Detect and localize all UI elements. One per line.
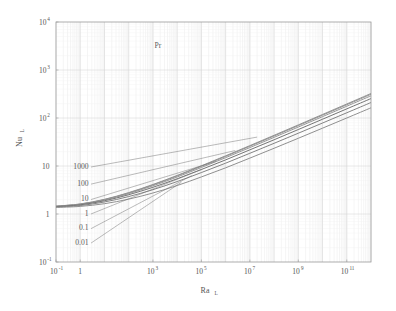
svg-text:Nu: Nu <box>15 137 24 147</box>
legend-label-pr-1: 1 <box>85 209 89 218</box>
svg-text:5: 5 <box>204 265 207 271</box>
nusselt-rayleigh-chart: Pr10001001010.10.01 10-11103105107109101… <box>0 0 396 311</box>
svg-text:3: 3 <box>47 64 50 70</box>
svg-text:Ra: Ra <box>201 286 210 295</box>
svg-text:10: 10 <box>147 267 155 276</box>
svg-text:4: 4 <box>47 16 50 22</box>
legend-title-pr: Pr <box>155 41 162 50</box>
svg-text:1: 1 <box>78 267 82 276</box>
svg-text:10: 10 <box>292 267 300 276</box>
x-tick-1: 1 <box>78 267 82 276</box>
svg-text:-1: -1 <box>47 256 52 262</box>
legend-label-pr-1000: 1000 <box>73 162 88 171</box>
svg-text:3: 3 <box>156 265 159 271</box>
y-tick-10: 10 <box>42 162 50 171</box>
svg-text:10: 10 <box>195 267 203 276</box>
svg-text:10: 10 <box>39 18 47 27</box>
svg-text:11: 11 <box>349 265 354 271</box>
svg-text:10: 10 <box>39 258 47 267</box>
legend-label-pr-10: 10 <box>81 194 89 203</box>
svg-text:-1: -1 <box>59 265 64 271</box>
svg-text:10: 10 <box>50 267 58 276</box>
svg-text:10: 10 <box>244 267 252 276</box>
legend-label-pr-100: 100 <box>77 179 89 188</box>
svg-text:10: 10 <box>341 267 349 276</box>
svg-text:2: 2 <box>47 112 50 118</box>
svg-text:10: 10 <box>39 114 47 123</box>
svg-text:7: 7 <box>253 265 256 271</box>
figure-container: Pr10001001010.10.01 10-11103105107109101… <box>0 0 396 311</box>
svg-text:L: L <box>215 290 218 296</box>
legend-label-pr-0_1: 0.1 <box>79 223 89 232</box>
svg-text:10: 10 <box>42 162 50 171</box>
svg-text:10: 10 <box>39 66 47 75</box>
legend-label-pr-0_01: 0.01 <box>75 238 88 247</box>
svg-text:9: 9 <box>301 265 304 271</box>
svg-text:L: L <box>19 129 25 132</box>
y-tick-1: 1 <box>46 210 50 219</box>
svg-text:1: 1 <box>46 210 50 219</box>
